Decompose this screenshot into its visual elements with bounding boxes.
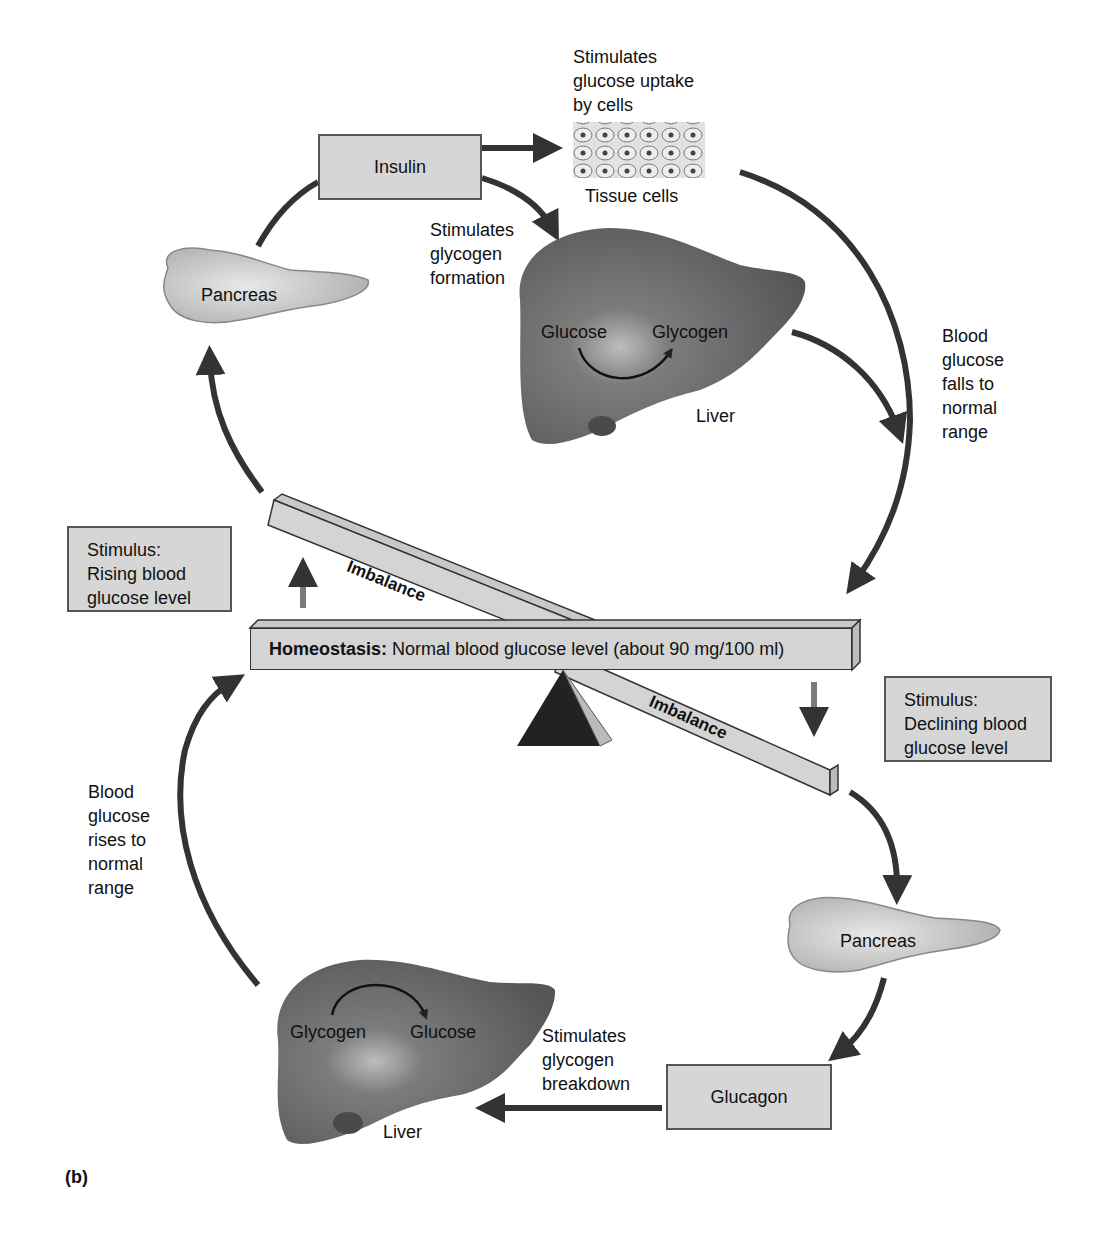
tissue-cells-icon [573, 122, 705, 178]
blood-glucose-falls-caption: Blood glucose falls to normal range [942, 324, 1004, 444]
arrow-tissue-to-normal [740, 172, 910, 582]
arrow-pancreas-to-insulin [258, 182, 318, 246]
pancreas-top-label: Pancreas [201, 283, 277, 307]
liver-top-label: Liver [696, 404, 735, 428]
liver-bottom-to-label: Glucose [410, 1020, 476, 1044]
stimulus-rising-box: Stimulus: Rising blood glucose level [67, 526, 232, 612]
glucagon-box: Glucagon [666, 1064, 832, 1130]
figure-label: (b) [65, 1165, 88, 1189]
arrow-imbalance-to-pancreas [210, 360, 262, 492]
arrow-imbalance-to-pancreas-bottom [850, 792, 897, 890]
uptake-caption: Stimulates glucose uptake by cells [573, 45, 694, 117]
homeostasis-bold-label: Homeostasis: [269, 639, 387, 660]
glycogen-formation-caption: Stimulates glycogen formation [430, 218, 514, 290]
liver-bottom-label: Liver [383, 1120, 422, 1144]
liver-bottom-icon [277, 960, 555, 1144]
liver-bottom-from-label: Glycogen [290, 1020, 366, 1044]
arrow-pancreas-to-glucagon [840, 978, 884, 1052]
insulin-box: Insulin [318, 134, 482, 200]
tissue-cells-label: Tissue cells [585, 184, 678, 208]
liver-top-to-label: Glycogen [652, 320, 728, 344]
liver-top-from-label: Glucose [541, 320, 607, 344]
glycogen-breakdown-caption: Stimulates glycogen breakdown [542, 1024, 630, 1096]
homeostasis-bar: Homeostasis: Normal blood glucose level … [250, 628, 852, 670]
insulin-label: Insulin [374, 155, 426, 179]
stimulus-declining-box: Stimulus: Declining blood glucose level [884, 676, 1052, 762]
blood-glucose-rises-caption: Blood glucose rises to normal range [88, 780, 150, 900]
pancreas-bottom-label: Pancreas [840, 929, 916, 953]
arrow-liver-to-normal-bottom [180, 682, 258, 985]
homeostasis-text: Normal blood glucose level (about 90 mg/… [392, 639, 784, 660]
arrow-liver-to-normal [792, 332, 898, 430]
glucagon-label: Glucagon [710, 1085, 787, 1109]
